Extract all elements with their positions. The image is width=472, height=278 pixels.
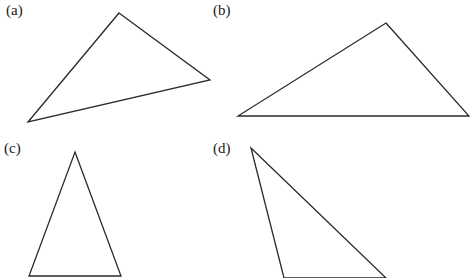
triangle-d: [251, 148, 386, 278]
panel-label-d: (d): [213, 141, 231, 156]
panel-label-b: (b): [213, 3, 231, 18]
triangle-figure: (a) (b) (c) (d): [0, 0, 472, 278]
panel-label-a: (a): [6, 3, 23, 18]
triangle-c: [29, 152, 121, 276]
panel-label-c: (c): [4, 141, 21, 156]
triangle-a: [28, 13, 210, 122]
triangles-canvas: [0, 0, 472, 278]
triangle-b: [238, 23, 469, 116]
